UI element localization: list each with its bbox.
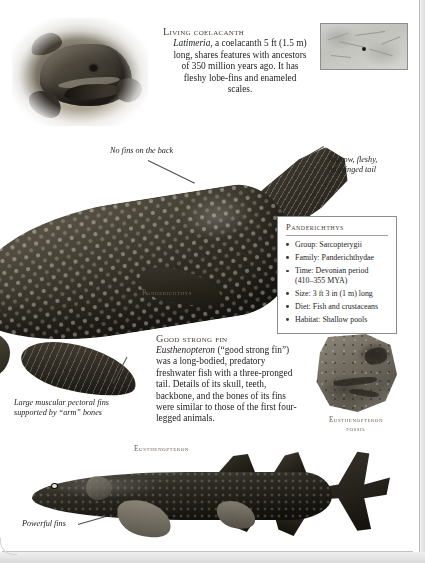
fossil-caption: Eusthenopteron fossil xyxy=(304,416,408,433)
distribution-map-thumbnail xyxy=(320,23,408,70)
living-coelacanth-heading: Living coelacanth xyxy=(163,26,309,37)
photo-vignette xyxy=(12,18,148,126)
fact-box-item-text: Habitat: Shallow pools xyxy=(295,315,367,324)
fact-box-list: Group: Sarcopterygii Family: Panderichth… xyxy=(286,240,388,325)
good-strong-fin-block: Good strong fin Eusthenopteron (“good st… xyxy=(156,333,304,425)
panderichthys-snout xyxy=(0,332,10,376)
bullet-icon xyxy=(286,270,289,273)
page-bottom-edge xyxy=(0,552,425,563)
callout-narrow-fleshy-tail: Narrow, fleshy, fin-fringed tail xyxy=(328,155,390,174)
bullet-icon xyxy=(286,318,289,321)
eusthenopteron-illustration xyxy=(20,452,410,550)
fact-box-item: Size: 3 ft 3 in (1 m) long xyxy=(286,289,388,299)
bullet-icon xyxy=(286,243,289,246)
fossil-rock-texture xyxy=(315,334,397,412)
bullet-icon xyxy=(286,305,289,308)
page-bottom-rule xyxy=(2,551,413,552)
living-coelacanth-block: Living coelacanth Latimeria, a coelacant… xyxy=(163,26,309,96)
fact-box-item-text: Family: Panderichthydae xyxy=(295,253,374,262)
living-coelacanth-body: Latimeria, a coelacanth 5 ft (1.5 m) lon… xyxy=(163,38,309,96)
map-location-dot xyxy=(362,47,366,51)
fact-box-item: Group: Sarcopterygii xyxy=(286,240,388,250)
panderichthys-fact-box: Panderichthys Group: Sarcopterygii Famil… xyxy=(277,216,397,334)
genus-name-latimeria: Latimeria xyxy=(173,38,210,48)
good-strong-fin-body: Eusthenopteron (“good strong fin”) was a… xyxy=(156,345,304,425)
genus-name-eusthenopteron: Eusthenopteron xyxy=(156,345,215,355)
fact-box-item-text: Time: Devonian period (410–355 MYA) xyxy=(295,266,368,285)
fossil-caption-line1: Eusthenopteron xyxy=(329,416,383,424)
fact-box-item-text: Diet: Fish and crustaceans xyxy=(295,302,378,311)
page-right-edge xyxy=(420,0,425,563)
fact-box-item-text: Group: Sarcopterygii xyxy=(295,240,362,249)
bullet-icon xyxy=(286,256,289,259)
fact-box-item-text: Size: 3 ft 3 in (1 m) long xyxy=(295,289,373,298)
good-strong-fin-body-text: (“good strong fin”) was a long-bodied, p… xyxy=(156,345,297,423)
species-label-panderichthys: Panderichthys xyxy=(142,288,192,297)
fact-box-item: Diet: Fish and crustaceans xyxy=(286,302,388,312)
page-corner-curl xyxy=(0,538,17,555)
callout-large-muscular-pectoral-fins: Large muscular pectoral fins supported b… xyxy=(14,398,122,417)
eusthenopteron-eye xyxy=(52,484,57,488)
fact-box-title: Panderichthys xyxy=(286,223,388,236)
eusthenopteron-fossil-photo xyxy=(315,334,397,412)
good-strong-fin-heading: Good strong fin xyxy=(156,333,304,344)
callout-no-fins-on-back: No fins on the back xyxy=(110,146,180,156)
fact-box-item: Habitat: Shallow pools xyxy=(286,315,388,325)
page-right-rule xyxy=(419,0,420,552)
fossil-caption-line2: fossil xyxy=(346,425,366,433)
book-page: Living coelacanth Latimeria, a coelacant… xyxy=(0,0,425,563)
fact-box-item: Family: Panderichthydae xyxy=(286,253,388,263)
coelacanth-photo xyxy=(12,18,148,126)
bullet-icon xyxy=(286,292,289,295)
panderichthys-pectoral-fin-rays xyxy=(16,332,142,405)
fact-box-item: Time: Devonian period (410–355 MYA) xyxy=(286,266,388,285)
eusthenopteron-scales xyxy=(32,472,332,520)
